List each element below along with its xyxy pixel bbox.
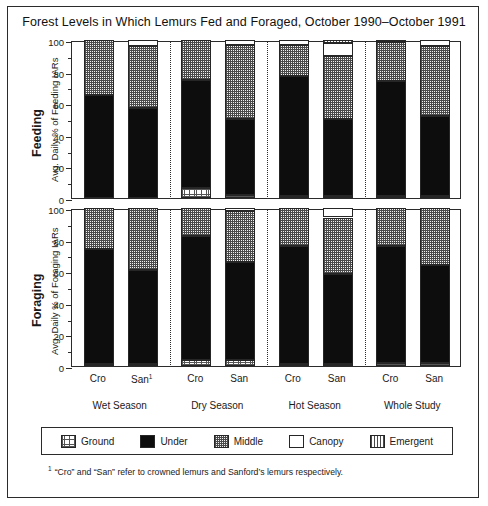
bar-segment-middle [420,208,450,265]
y-axis-tick [68,184,72,185]
footnote-text: “Cro” and “San” refer to crowned lemurs … [55,467,343,477]
legend-item[interactable]: Middle [214,435,263,448]
foraging-plot-panel: 020406080100 [71,209,461,367]
stacked-bar[interactable] [84,208,114,366]
bar-segment-middle [181,40,211,80]
footnote: 1“Cro” and “San” refer to crowned lemurs… [48,465,448,477]
bar-segment-middle [420,46,450,116]
foraging-side-title: Foraging [30,274,44,327]
bar-segment-under [84,95,114,198]
bar-segment-canopy [420,40,450,46]
legend-swatch-middle [214,435,229,448]
stacked-bar[interactable] [323,208,353,366]
legend-item[interactable]: Emergent [370,435,433,448]
x-axis-label-san: San [425,373,443,384]
bar-segment-canopy [279,40,309,45]
x-axis-group-label: Whole Study [384,400,441,411]
footnote-marker: 1 [48,465,52,472]
x-axis-label-san: San [230,373,248,384]
bar-segment-canopy [128,40,158,46]
bar-segment-under [128,108,158,198]
bar-segment-under [84,249,114,364]
y-axis-tick [66,200,72,201]
bar-segment-middle [323,218,353,275]
x-axis-label-san: San [328,373,346,384]
legend-label: Emergent [390,436,433,447]
y-axis-tick [66,305,72,306]
y-axis-tick-label: 20 [53,163,64,174]
y-axis-tick-label: 40 [53,131,64,142]
stacked-bar[interactable] [279,208,309,366]
bar-segment-middle [225,45,255,119]
bar-segment-under [225,262,255,360]
bar-segment-middle [376,208,406,246]
stacked-bar[interactable] [376,40,406,198]
bar-segment-under [420,116,450,197]
legend-label: Ground [81,436,114,447]
bar-segment-middle [128,46,158,108]
bar-segment-middle [181,208,211,236]
x-axis-label-cro: Cro [90,373,106,384]
stacked-bar[interactable] [279,40,309,198]
y-axis-tick [68,153,72,154]
bar-segment-ground [376,363,406,366]
y-axis-tick [66,273,72,274]
bar-segment-under [376,81,406,196]
bar-segment-ground [279,364,309,366]
bar-segment-ground [128,364,158,366]
stacked-bar[interactable] [323,40,353,198]
stacked-bar[interactable] [225,40,255,198]
stacked-bar[interactable] [84,40,114,198]
y-axis-tick [66,74,72,75]
bar-segment-ground [181,188,211,198]
stacked-bar[interactable] [181,40,211,198]
bar-segment-ground [181,360,211,366]
y-axis-tick [66,210,72,211]
bar-segment-ground [225,360,255,366]
bar-segment-under [181,236,211,359]
y-axis-tick [66,137,72,138]
stacked-bar[interactable] [128,208,158,366]
feeding-plot-panel: 020406080100 [71,41,461,199]
y-axis-tick [68,226,72,227]
bar-segment-ground [323,364,353,366]
y-axis-tick-label: 100 [48,37,64,48]
bar-segment-canopy [376,40,406,42]
y-axis-tick [66,42,72,43]
figure-container: Forest Levels in Which Lemurs Fed and Fo… [7,6,479,498]
x-axis-label-cro: Cro [187,373,203,384]
group-separator [170,41,171,199]
stacked-bar[interactable] [181,208,211,366]
legend-item[interactable]: Under [140,435,187,448]
legend-label: Under [160,436,187,447]
bar-segment-under [181,80,211,188]
x-axis-group-label: Wet Season [93,400,147,411]
group-separator [365,209,366,367]
group-separator [267,41,268,199]
y-axis-tick-label: 0 [59,363,64,374]
stacked-bar[interactable] [376,208,406,366]
x-axis-group-label: Dry Season [191,400,243,411]
legend-item[interactable]: Ground [61,435,114,448]
y-axis-tick-label: 60 [53,100,64,111]
y-axis-tick [68,352,72,353]
stacked-bar[interactable] [225,208,255,366]
legend-swatch-emergent [370,435,385,448]
bar-segment-under [323,274,353,363]
stacked-bar[interactable] [128,40,158,198]
y-axis-tick-label: 80 [53,68,64,79]
y-axis-tick-label: 100 [48,205,64,216]
stacked-bar[interactable] [420,208,450,366]
stacked-bar[interactable] [420,40,450,198]
y-axis-tick [68,58,72,59]
bar-segment-middle [84,208,114,249]
legend-label: Canopy [309,436,343,447]
bar-segment-under [279,246,309,364]
figure-title: Forest Levels in Which Lemurs Fed and Fo… [8,15,480,29]
legend-item[interactable]: Canopy [289,435,343,448]
y-axis-tick-label: 80 [53,236,64,247]
bar-segment-middle [225,211,255,262]
bar-segment-under [420,265,450,363]
bar-segment-ground [420,363,450,366]
x-axis-label-footnote-marker: 1 [149,373,153,380]
